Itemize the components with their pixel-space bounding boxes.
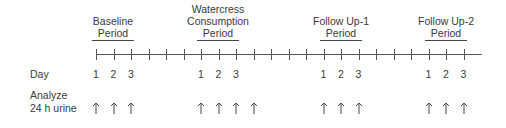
- up-arrow-icon: [128, 100, 135, 112]
- day-number: 1: [198, 68, 204, 80]
- day-number: 3: [356, 68, 362, 80]
- period-name: Consumption: [187, 15, 249, 27]
- timeline-tick: [341, 49, 342, 60]
- day-number: 3: [128, 68, 134, 80]
- row-label-analyze: Analyze: [30, 89, 67, 101]
- up-arrow-icon: [425, 100, 432, 112]
- day-number: 1: [93, 68, 99, 80]
- timeline-tick: [324, 49, 325, 60]
- day-number: 1: [321, 68, 327, 80]
- timeline-tick: [289, 49, 290, 60]
- timeline-tick: [359, 49, 360, 60]
- timeline-tick: [219, 49, 220, 60]
- timeline-tick: [166, 49, 167, 60]
- period-label: Follow Up-2Period: [418, 3, 474, 41]
- period-name: [313, 3, 369, 15]
- day-number: 3: [461, 68, 467, 80]
- period-name: Baseline: [92, 15, 134, 27]
- up-arrow-icon: [233, 100, 240, 112]
- timeline-tick: [411, 49, 412, 60]
- up-arrow-icon: [320, 100, 327, 112]
- up-arrow-icon: [110, 100, 117, 112]
- timeline-tick: [254, 49, 255, 60]
- day-number: 1: [426, 68, 432, 80]
- row-label-day: Day: [30, 68, 49, 80]
- timeline-tick: [131, 49, 132, 60]
- timeline-tick: [376, 49, 377, 60]
- period-name: Watercress: [187, 3, 249, 15]
- up-arrow-icon: [250, 100, 257, 112]
- period-label: Follow Up-1Period: [313, 3, 369, 41]
- day-number: 2: [338, 68, 344, 80]
- timeline-tick: [446, 49, 447, 60]
- up-arrow-icon: [338, 100, 345, 112]
- period-word: Period: [187, 27, 249, 41]
- timeline-tick: [271, 49, 272, 60]
- period-name: Follow Up-1: [313, 15, 369, 27]
- period-name: [418, 3, 474, 15]
- timeline-tick: [464, 49, 465, 60]
- timeline-tick: [201, 49, 202, 60]
- period-label: WatercressConsumptionPeriod: [187, 3, 249, 41]
- period-word: Period: [418, 27, 474, 41]
- row-label-24h-urine: 24 h urine: [30, 102, 77, 114]
- day-number: 3: [233, 68, 239, 80]
- timeline-tick: [394, 49, 395, 60]
- day-number: 2: [443, 68, 449, 80]
- timeline-tick: [184, 49, 185, 60]
- period-word: Period: [92, 27, 134, 41]
- timeline-tick: [236, 49, 237, 60]
- up-arrow-icon: [460, 100, 467, 112]
- period-name: Follow Up-2: [418, 15, 474, 27]
- day-number: 2: [216, 68, 222, 80]
- period-name: [92, 3, 134, 15]
- up-arrow-icon: [355, 100, 362, 112]
- period-label: BaselinePeriod: [92, 3, 134, 41]
- up-arrow-icon: [443, 100, 450, 112]
- timeline-tick: [114, 49, 115, 60]
- day-number: 2: [111, 68, 117, 80]
- up-arrow-icon: [93, 100, 100, 112]
- up-arrow-icon: [198, 100, 205, 112]
- period-word: Period: [313, 27, 369, 41]
- timeline-tick: [149, 49, 150, 60]
- timeline-tick: [429, 49, 430, 60]
- timeline-tick: [306, 49, 307, 60]
- up-arrow-icon: [215, 100, 222, 112]
- timeline-tick: [96, 49, 97, 60]
